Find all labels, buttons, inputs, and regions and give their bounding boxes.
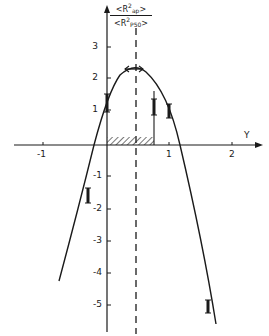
x-tick-label: 2 bbox=[229, 150, 235, 159]
x-axis-arrow-icon bbox=[255, 142, 263, 148]
peak-marker bbox=[125, 66, 143, 72]
y-axis bbox=[104, 5, 111, 332]
y-axis-label: <R2ap> <R2P50> bbox=[110, 3, 152, 29]
error-bar bbox=[85, 188, 91, 203]
hatched-region bbox=[107, 137, 154, 145]
y-tick-label: 1 bbox=[78, 105, 98, 114]
error-bar bbox=[205, 300, 211, 313]
y-axis-label-numerator: <R2ap> bbox=[110, 3, 152, 14]
y-tick-label: -2 bbox=[82, 204, 102, 213]
chart-canvas bbox=[0, 0, 269, 336]
y-tick-label: -5 bbox=[82, 300, 102, 309]
x-tick-label: 1 bbox=[166, 150, 172, 159]
y-tick-label: -4 bbox=[82, 268, 102, 277]
x-tick-label: -1 bbox=[37, 150, 46, 159]
y-axis-label-denominator: <R2P50> bbox=[110, 17, 152, 28]
y-tick-label: -3 bbox=[82, 236, 102, 245]
y-tick-label: 2 bbox=[78, 73, 98, 82]
y-tick-label: 3 bbox=[78, 42, 98, 51]
fraction-bar bbox=[110, 15, 152, 16]
error-bar bbox=[151, 99, 157, 115]
x-axis-label: Y bbox=[244, 131, 250, 140]
y-tick-label: -1 bbox=[82, 171, 102, 180]
